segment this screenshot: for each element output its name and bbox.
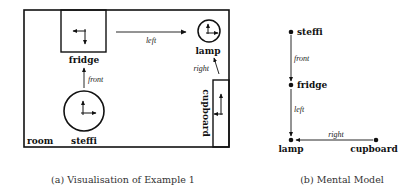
cupboard-label: cupboard (201, 89, 211, 137)
fridge-label: fridge (69, 55, 100, 65)
steffi-circle (64, 91, 104, 131)
lamp-node (289, 138, 294, 143)
lamp-circle (198, 20, 220, 42)
left-edge-label: left (294, 105, 305, 114)
cupboard-node (374, 138, 379, 143)
front-relation-label: front (88, 75, 104, 84)
fridge-node-label: fridge (297, 80, 328, 90)
fridge-orientation-icon (73, 29, 86, 44)
front-edge-label: front (294, 54, 310, 63)
panel-a: room fridge left lamp right cupboard f (24, 10, 229, 185)
caption-a: (a) Visualisation of Example 1 (51, 174, 195, 185)
steffi-node-label: steffi (297, 27, 323, 37)
steffi-node (289, 30, 294, 35)
right-edge-label: right (328, 130, 344, 139)
room-label: room (27, 136, 54, 146)
lamp-label: lamp (195, 46, 220, 56)
lamp-node-label: lamp (278, 144, 303, 154)
steffi-label: steffi (71, 136, 97, 146)
cupboard-node-label: cupboard (350, 144, 398, 154)
cupboard-orientation-icon (214, 94, 223, 115)
steffi-orientation-icon (81, 101, 96, 115)
panel-b: steffi front fridge left lamp right cupb… (278, 27, 398, 185)
figure: room fridge left lamp right cupboard f (0, 0, 416, 194)
right-arrow (214, 58, 219, 74)
lamp-orientation-icon (206, 24, 218, 34)
fridge-node (289, 83, 294, 88)
left-relation-label: left (146, 36, 157, 45)
caption-b: (b) Mental Model (300, 174, 384, 185)
right-relation-label: right (193, 64, 209, 73)
